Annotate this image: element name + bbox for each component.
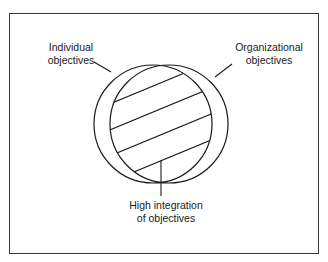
label-line: High integration (114, 199, 218, 212)
label-line: Organizational (224, 41, 314, 54)
label-line: objectives (36, 54, 106, 67)
label-line: of objectives (114, 212, 218, 225)
organizational-circle (110, 65, 228, 183)
label-line: Individual (36, 41, 106, 54)
individual-circle (94, 65, 212, 183)
organizational-objectives-label: Organizational objectives (224, 41, 314, 67)
high-integration-label: High integration of objectives (114, 199, 218, 225)
label-line: objectives (224, 54, 314, 67)
individual-objectives-label: Individual objectives (36, 41, 106, 67)
